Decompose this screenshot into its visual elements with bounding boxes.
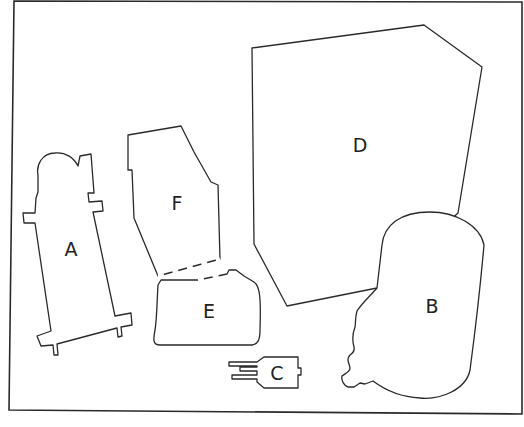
piece-c-outline	[229, 357, 301, 388]
piece-e-label: E	[203, 300, 215, 322]
piece-f-label: F	[172, 192, 183, 214]
piece-d-label: D	[353, 134, 368, 156]
piece-e: E	[154, 270, 260, 345]
diagram-canvas: D B F A E C	[0, 0, 524, 427]
piece-b-label: B	[425, 295, 438, 317]
piece-a-label: A	[65, 238, 78, 260]
piece-f: F	[128, 126, 220, 276]
piece-c-label: C	[270, 362, 283, 384]
piece-c: C	[229, 357, 301, 388]
piece-a-outline	[23, 153, 132, 355]
piece-a: A	[23, 153, 132, 355]
